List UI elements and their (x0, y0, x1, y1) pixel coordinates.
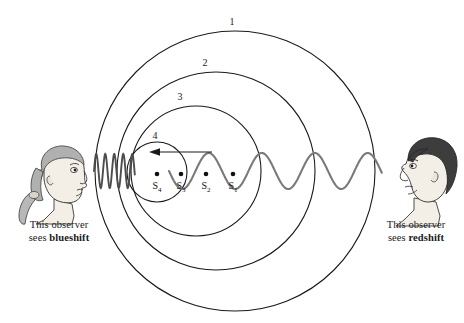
caption-left-emph: blueshift (49, 232, 89, 243)
source-label-s3: S3 (176, 180, 186, 194)
compressed-wave-left (94, 154, 135, 188)
redshift-observer-illustration (396, 138, 457, 226)
caption-left-prefix: sees (29, 232, 50, 243)
wavefront-circle-1 (95, 31, 375, 311)
caption-right-line2: sees redshift (370, 231, 462, 244)
blueshift-observer-caption: This observer sees blueshift (4, 218, 114, 244)
source-labels: S4 S3 S2 S1 (152, 180, 238, 194)
redshift-observer-caption: This observer sees redshift (370, 218, 462, 244)
observer-left-hair-tie (29, 191, 39, 198)
blueshift-observer-illustration (19, 146, 87, 224)
wavefront-label-4: 4 (153, 130, 158, 141)
doppler-diagram-canvas: 1 2 3 4 S4 S3 (0, 0, 464, 323)
source-label-s2: S2 (201, 180, 211, 194)
source-dot-s1 (231, 172, 236, 177)
source-dot-s2 (204, 172, 209, 177)
observer-left-pupil (74, 169, 77, 172)
source-motion-arrow (149, 148, 212, 156)
caption-right-prefix: sees (388, 232, 409, 243)
source-label-s4: S4 (152, 180, 162, 194)
observer-right-mouth (405, 186, 413, 187)
source-dot-s4 (155, 172, 160, 177)
caption-left-line2: sees blueshift (4, 231, 114, 244)
source-dot-s3 (179, 172, 184, 177)
wavefront-circle-2 (117, 72, 315, 270)
doppler-effect-figure: 1 2 3 4 S4 S3 (0, 0, 464, 323)
source-label-s1: S1 (228, 180, 238, 194)
caption-right-emph: redshift (409, 232, 445, 243)
wavefront-label-2: 2 (203, 57, 208, 68)
observer-right-pupil (411, 165, 414, 168)
caption-right-line1: This observer (370, 218, 462, 231)
wavefront-labels: 1 2 3 4 (153, 16, 235, 141)
motion-arrow-head (149, 148, 160, 156)
wavefront-circles (95, 31, 375, 311)
caption-left-line1: This observer (4, 218, 114, 231)
wavefront-label-3: 3 (178, 91, 183, 102)
wavefront-label-1: 1 (230, 16, 235, 27)
